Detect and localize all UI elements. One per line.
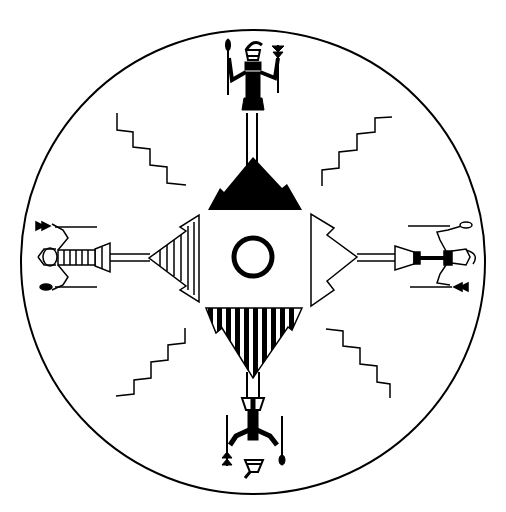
north-black-mountain bbox=[208, 157, 302, 210]
south-figure bbox=[222, 372, 285, 478]
zigzag-nw bbox=[117, 113, 186, 185]
west-figure bbox=[36, 222, 150, 290]
east-figure bbox=[357, 222, 475, 291]
east-outlined-triangle bbox=[311, 214, 357, 306]
south-striped-mountain bbox=[206, 308, 302, 388]
zigzag-se bbox=[326, 329, 390, 398]
center-square bbox=[208, 213, 310, 307]
sandpainting-illustration bbox=[0, 0, 506, 512]
zigzag-sw bbox=[116, 328, 185, 396]
west-striped-triangle bbox=[149, 215, 199, 302]
zigzag-ne bbox=[322, 117, 392, 186]
